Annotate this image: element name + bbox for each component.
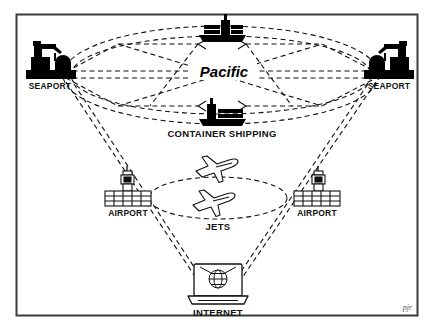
seaport-left-label: SEAPORT bbox=[29, 81, 72, 91]
container-shipping-label: CONTAINER SHIPPING bbox=[167, 128, 276, 139]
laptop-globe-icon bbox=[188, 264, 248, 304]
diagram-svg: SEAPORT SEAPORT bbox=[0, 0, 432, 334]
internet-icon-group: INTERNET bbox=[188, 264, 248, 318]
diagram-canvas: SEAPORT SEAPORT bbox=[0, 0, 432, 334]
airport-left-label: AIRPORT bbox=[108, 208, 148, 218]
jets-label: JETS bbox=[206, 221, 231, 232]
internet-label: INTERNET bbox=[193, 307, 243, 318]
artist-signature: pjr bbox=[402, 303, 413, 312]
pacific-label-group: Pacific bbox=[191, 63, 257, 80]
seaport-right-label: SEAPORT bbox=[368, 81, 411, 91]
pacific-label: Pacific bbox=[200, 63, 249, 80]
airport-right-label: AIRPORT bbox=[297, 208, 337, 218]
